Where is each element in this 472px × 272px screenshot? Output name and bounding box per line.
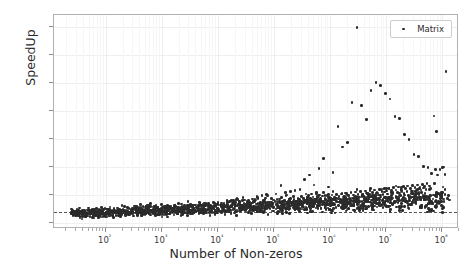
x-axis-tick-mark-minor: [187, 228, 188, 231]
scatter-point: [365, 118, 368, 121]
scatter-point: [187, 211, 190, 214]
scatter-point: [398, 209, 401, 212]
scatter-point: [186, 204, 189, 207]
x-axis-tick-mark-minor: [204, 228, 205, 231]
scatter-point: [400, 186, 403, 189]
scatter-point: [367, 205, 370, 208]
scatter-point: [356, 188, 359, 191]
scatter-point: [390, 194, 393, 197]
scatter-point: [191, 212, 194, 215]
scatter-point: [331, 210, 334, 213]
scatter-point: [92, 210, 95, 213]
gridline-vertical-minor: [205, 15, 206, 227]
gridline-vertical-minor: [132, 15, 133, 227]
scatter-point: [261, 210, 264, 213]
scatter-point: [389, 98, 392, 101]
scatter-point: [426, 198, 429, 201]
scatter-point: [334, 212, 337, 215]
scatter-point: [443, 200, 446, 203]
scatter-point: [95, 207, 98, 210]
x-axis-tick-mark-minor: [178, 228, 179, 231]
scatter-point: [332, 207, 335, 210]
scatter-point: [447, 194, 450, 197]
x-axis-tick-mark: [329, 228, 330, 232]
scatter-point: [348, 198, 351, 201]
scatter-point: [294, 189, 297, 192]
scatter-point: [356, 207, 359, 210]
scatter-point: [417, 155, 420, 158]
scatter-point: [410, 203, 413, 206]
scatter-point: [208, 207, 211, 210]
scatter-point: [420, 191, 423, 194]
scatter-point: [250, 212, 253, 215]
scatter-point: [303, 178, 306, 181]
x-axis-tick-mark-minor: [320, 228, 321, 231]
x-axis-tick-mark-minor: [439, 228, 440, 231]
scatter-point: [403, 205, 406, 208]
scatter-point: [422, 187, 425, 190]
x-axis-tick-mark-minor: [419, 228, 420, 231]
scatter-point: [285, 211, 288, 214]
x-axis-tick-mark-minor: [326, 228, 327, 231]
scatter-point: [223, 206, 226, 209]
scatter-point: [149, 205, 152, 208]
gridline-vertical: [274, 15, 275, 227]
scatter-point: [348, 202, 351, 205]
scatter-point: [352, 197, 355, 200]
x-axis-tick-mark-minor: [312, 228, 313, 231]
x-axis-tick-label: 10³: [154, 233, 167, 245]
scatter-point: [317, 207, 320, 210]
scatter-point: [256, 210, 259, 213]
gridline-horizontal: [54, 55, 457, 56]
scatter-point: [436, 174, 439, 177]
x-axis-tick-mark-minor: [200, 228, 201, 231]
gridline-vertical-minor: [149, 15, 150, 227]
scatter-point: [345, 204, 348, 207]
x-axis-tick-mark-minor: [256, 228, 257, 231]
scatter-point: [186, 208, 189, 211]
x-axis-tick-mark: [441, 228, 442, 232]
scatter-point: [433, 182, 436, 185]
scatter-point: [257, 197, 260, 200]
scatter-point: [434, 200, 437, 203]
scatter-point: [84, 214, 87, 217]
x-axis-tick-label: 10⁸: [434, 233, 447, 245]
gridline-vertical-minor: [195, 15, 196, 227]
scatter-point: [281, 212, 284, 215]
x-axis-tick-mark-minor: [75, 228, 76, 231]
scatter-point: [288, 198, 291, 201]
gridline-vertical-minor: [123, 15, 124, 227]
scatter-point: [403, 133, 406, 136]
scatter-point: [398, 117, 401, 120]
gridline-horizontal: [54, 111, 457, 112]
scatter-point: [444, 188, 447, 191]
scatter-point: [166, 216, 169, 219]
gridline-vertical-minor: [97, 15, 98, 227]
gridline-vertical-minor: [100, 15, 101, 227]
x-axis-tick-mark-minor: [373, 228, 374, 231]
gridline-vertical-minor: [201, 15, 202, 227]
scatter-point: [414, 190, 417, 193]
scatter-point: [346, 141, 349, 144]
x-axis-tick-mark-minor: [122, 228, 123, 231]
scatter-point: [396, 199, 399, 202]
x-axis-tick-mark-minor: [234, 228, 235, 231]
scatter-point: [285, 195, 288, 198]
scatter-point: [318, 167, 321, 170]
scatter-point: [422, 165, 425, 168]
x-axis-tick-label: 10²: [98, 233, 111, 245]
scatter-point: [313, 203, 316, 206]
x-axis-tick-mark-minor: [317, 228, 318, 231]
gridline-vertical-minor: [145, 15, 146, 227]
legend[interactable]: Matrix: [390, 20, 452, 38]
scatter-point: [143, 210, 146, 213]
scatter-point: [230, 212, 233, 215]
scatter-point: [222, 209, 225, 212]
scatter-point: [438, 201, 441, 204]
scatter-point: [77, 213, 80, 216]
x-axis-tick-mark-minor: [402, 228, 403, 231]
x-axis-tick-mark-minor: [382, 228, 383, 231]
scatter-point: [351, 101, 354, 104]
scatter-point: [78, 210, 81, 213]
x-axis-tick-mark-minor: [99, 228, 100, 231]
